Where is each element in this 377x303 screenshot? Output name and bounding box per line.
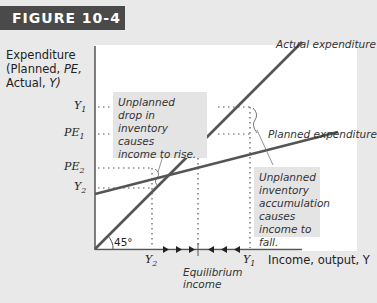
actual-expenditure-label: Actual expenditure xyxy=(276,38,376,50)
note-unplanned-accumulation: Unplanned inventory accumulation causes … xyxy=(254,167,320,237)
planned-expenditure-label: Planned expenditure xyxy=(268,128,377,140)
y-tick-y1: Y1 xyxy=(74,99,86,114)
note-unplanned-drop: Unplanned drop in inventory causes incom… xyxy=(113,92,207,158)
angle-45-label: 45° xyxy=(114,236,133,248)
x-tick-y1: Y1 xyxy=(243,253,255,268)
y-axis-label: Expenditure (Planned, PE, Actual, Y) xyxy=(6,48,82,90)
y-tick-pe2: PE2 xyxy=(64,160,85,175)
equilibrium-income-label: Equilibrium income xyxy=(183,266,243,290)
y-tick-pe1: PE1 xyxy=(64,126,85,141)
y-tick-y2: Y2 xyxy=(74,180,86,195)
x-tick-y2: Y2 xyxy=(145,253,157,268)
x-axis-label: Income, output, Y xyxy=(268,253,370,267)
